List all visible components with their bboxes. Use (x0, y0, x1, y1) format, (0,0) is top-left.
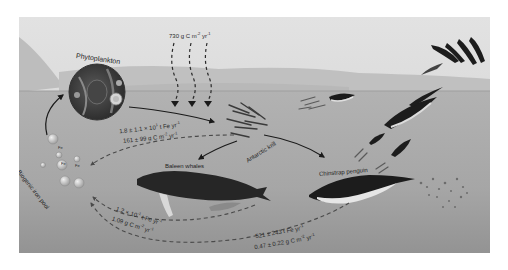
diagram-frame: Phytoplankton 730 g C m-2 yr-1 Antarctic… (19, 17, 490, 253)
fe-particle-label: Fe (75, 164, 80, 168)
phytoplankton-icon (69, 64, 125, 120)
diagram-canvas (19, 17, 490, 253)
fe-particle-label: Fe (58, 146, 63, 150)
whales-label: Baleen whales (165, 163, 204, 169)
fe-particle-label: Fe (61, 162, 66, 166)
primary-production-flux: 730 g C m-2 yr-1 (169, 33, 210, 39)
